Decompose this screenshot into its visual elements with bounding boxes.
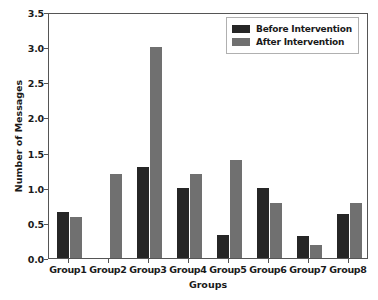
bar-after [110,174,122,258]
x-axis-tick-mark [348,259,349,263]
x-axis-tick-labels: Group1Group2Group3Group4Group5Group6Grou… [48,264,368,278]
x-axis-tick-mark [308,259,309,263]
bar-group [89,14,129,258]
legend-item-after: After Intervention [232,36,352,48]
x-axis-label: Groups [48,279,368,290]
x-axis-tick-label: Group8 [318,264,378,275]
bar-after [270,203,282,258]
x-axis-tick-mark [68,259,69,263]
bar-before [217,235,229,258]
legend-swatch-after-icon [232,38,250,46]
bar-before [337,214,349,258]
x-axis-tick-mark [228,259,229,263]
bar-before [297,236,309,258]
legend-swatch-before-icon [232,25,250,33]
bar-before [137,167,149,258]
bar-group [169,14,209,258]
chart-legend: Before Intervention After Intervention [226,17,359,54]
bar-after [350,203,362,258]
bar-after [150,47,162,258]
x-axis-tick-mark [108,259,109,263]
bar-before [177,188,189,258]
y-axis-tick-marks [0,13,48,259]
legend-label-before: Before Intervention [256,24,352,34]
bar-chart-figure: Number of Messages 0.00.51.01.52.02.53.0… [0,0,378,300]
bar-before [257,188,269,258]
bar-after [310,245,322,258]
legend-label-after: After Intervention [256,37,344,47]
bar-group [129,14,169,258]
bar-group [49,14,89,258]
bar-after [70,217,82,258]
legend-item-before: Before Intervention [232,23,352,35]
x-axis-tick-mark [188,259,189,263]
bar-after [230,160,242,258]
x-axis-tick-mark [148,259,149,263]
bar-after [190,174,202,258]
x-axis-tick-mark [268,259,269,263]
bar-before [57,212,69,258]
